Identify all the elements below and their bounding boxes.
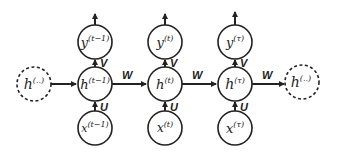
input-node-0: x(t−1) bbox=[78, 111, 112, 145]
input-node-1: x(t) bbox=[148, 111, 182, 145]
svg-text:h(..): h(..) bbox=[291, 74, 311, 90]
v-label-1: V bbox=[170, 57, 179, 69]
u-label-0: U bbox=[100, 101, 109, 113]
timestep-column-t: y(t) V h(t) U x(t) bbox=[148, 14, 182, 145]
rnn-unfolded-diagram: h(..) y(t−1) V h(t−1) U x(t−1) W bbox=[0, 0, 338, 159]
u-label-1: U bbox=[170, 101, 179, 113]
w-label-0: W bbox=[122, 69, 134, 81]
input-node-2: x(τ) bbox=[218, 111, 252, 145]
hidden-node-0: h(t−1) bbox=[78, 67, 112, 101]
timestep-column-t-minus-1: y(t−1) V h(t−1) U x(t−1) bbox=[78, 14, 112, 145]
hidden-node-1: h(t) bbox=[148, 67, 182, 101]
w-label-1: W bbox=[192, 69, 204, 81]
output-node-0: y(t−1) bbox=[78, 25, 112, 59]
w-label-2: W bbox=[262, 69, 274, 81]
v-label-2: V bbox=[240, 57, 249, 69]
hidden-node-2: h(τ) bbox=[218, 67, 252, 101]
left-boundary-hidden-node: h(..) bbox=[17, 67, 51, 101]
right-boundary-hidden-node: h(..) bbox=[285, 65, 319, 99]
u-label-2: U bbox=[240, 101, 249, 113]
svg-text:h(..): h(..) bbox=[24, 76, 44, 92]
output-node-1: y(t) bbox=[148, 25, 182, 59]
v-label-0: V bbox=[100, 57, 109, 69]
timestep-column-tau: y(τ) V h(τ) U x(τ) bbox=[218, 12, 252, 145]
output-node-2: y(τ) bbox=[218, 25, 252, 59]
